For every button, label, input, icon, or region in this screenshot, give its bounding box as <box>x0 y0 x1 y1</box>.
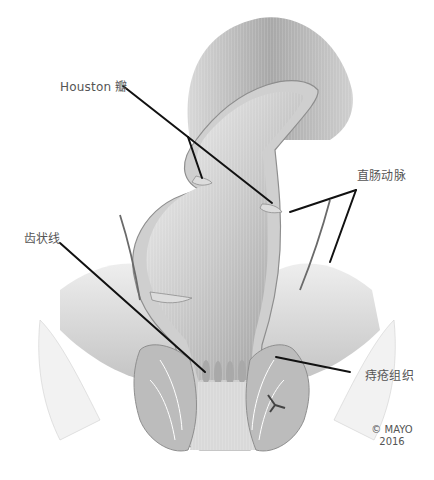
label-houston-valve: Houston 瓣 <box>60 77 128 94</box>
copyright-line-2: 2016 <box>368 436 416 448</box>
label-hemorrhoidal-tissue: 痔疮组织 <box>365 366 414 383</box>
rectum-anatomy-illustration <box>0 0 434 480</box>
copyright-notice: © MAYO 2016 <box>368 424 416 448</box>
label-dentate-line: 齿状线 <box>24 229 61 246</box>
label-rectal-artery: 直肠动脉 <box>357 166 406 183</box>
copyright-line-1: © MAYO <box>368 424 416 436</box>
